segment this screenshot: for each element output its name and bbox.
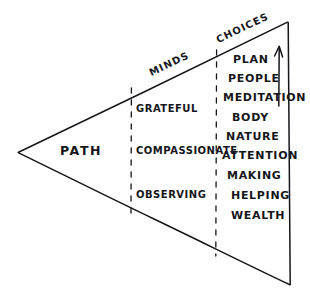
choice-item-wealth: WEALTH [231,210,285,221]
choice-item-helping: HELPING [231,190,290,201]
choice-item-attention: ATTENTION [222,150,298,161]
choice-item-nature: NATURE [226,131,280,142]
choice-item-meditation: MEDITATION [223,92,306,103]
mind-item-grateful: GRATEFUL [136,104,198,114]
choice-item-people: PEOPLE [228,73,280,84]
diagram-canvas: MINDS CHOICES PATH GRATEFUL COMPASSIONAT… [0,0,310,304]
choice-item-body: BODY [232,112,269,123]
choice-item-plan: PLAN [233,54,269,65]
choice-item-making: MAKING [227,170,282,181]
section-label-path: PATH [60,145,102,158]
mind-item-observing: OBSERVING [136,190,206,200]
